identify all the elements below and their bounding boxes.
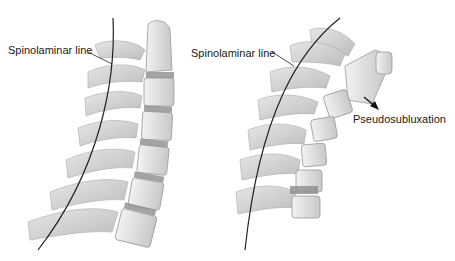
spinolaminar-label-left: Spinolaminar line <box>8 44 92 56</box>
cervical-spine-figure <box>0 0 455 261</box>
spinolaminar-label-right: Spinolaminar line <box>191 47 275 59</box>
pseudosubluxation-label: Pseudosubluxation <box>353 113 446 125</box>
spine-illustration <box>0 0 455 261</box>
